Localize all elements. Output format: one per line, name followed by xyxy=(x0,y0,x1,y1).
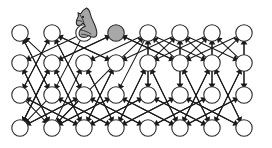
graph-node-r2c3[interactable] xyxy=(108,87,124,103)
knight-graph-canvas xyxy=(0,0,272,148)
graph-node-r3c1[interactable] xyxy=(44,120,60,136)
graph-node-r3c3[interactable] xyxy=(108,120,124,136)
graph-node-r3c2[interactable] xyxy=(76,120,92,136)
graph-node-r3c5[interactable] xyxy=(172,120,188,136)
knight-eye-icon xyxy=(82,16,84,18)
graph-node-r1c6[interactable] xyxy=(204,55,220,71)
knight-move-graph-figure xyxy=(0,0,272,148)
graph-node-r0c1[interactable] xyxy=(44,25,60,41)
graph-node-r1c5[interactable] xyxy=(172,55,188,71)
graph-node-r0c3[interactable] xyxy=(108,25,124,41)
graph-node-r3c4[interactable] xyxy=(140,120,156,136)
graph-node-r2c1[interactable] xyxy=(44,87,60,103)
graph-node-r2c6[interactable] xyxy=(204,87,220,103)
graph-node-r1c4[interactable] xyxy=(140,55,156,71)
graph-node-r2c4[interactable] xyxy=(140,87,156,103)
graph-node-r0c5[interactable] xyxy=(172,25,188,41)
graph-node-r3c7[interactable] xyxy=(236,120,252,136)
graph-node-r1c2[interactable] xyxy=(76,55,92,71)
graph-node-r1c7[interactable] xyxy=(236,55,252,71)
graph-edge xyxy=(216,37,237,57)
graph-node-r0c0[interactable] xyxy=(12,25,28,41)
graph-node-r2c2[interactable] xyxy=(76,87,92,103)
graph-node-r2c7[interactable] xyxy=(236,87,252,103)
graph-node-r1c3[interactable] xyxy=(108,55,124,71)
graph-node-r2c5[interactable] xyxy=(172,87,188,103)
graph-node-r1c1[interactable] xyxy=(44,55,60,71)
edges-layer xyxy=(22,35,247,126)
graph-node-r0c4[interactable] xyxy=(140,25,156,41)
graph-node-r0c6[interactable] xyxy=(204,25,220,41)
knight-chess-piece xyxy=(76,8,97,38)
graph-node-r2c0[interactable] xyxy=(12,87,28,103)
graph-node-r3c0[interactable] xyxy=(12,120,28,136)
graph-node-r0c7[interactable] xyxy=(236,25,252,41)
graph-node-r1c0[interactable] xyxy=(12,55,28,71)
graph-node-r3c6[interactable] xyxy=(204,120,220,136)
knight-silhouette xyxy=(76,8,97,38)
